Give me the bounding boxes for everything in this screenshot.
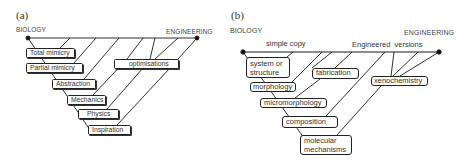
box-mechanics: Mechanics [67,95,106,105]
box-inspiration: Inspiration [88,125,131,135]
box-xenochemistry: xenochemistry [371,76,428,86]
panel-a-engineering-label: ENGINEERING [166,29,213,36]
panel-b-biology-label: BIOLOGY [230,27,262,34]
panel-a-biology-label: BIOLOGY [16,27,46,34]
annotation-engineered-versions: Engineered versions [352,41,422,49]
panel-b-engineering-label: ENGINEERING [404,29,454,36]
box-optimisations: optimisations [114,59,179,69]
panel-b-label: (b) [231,10,244,21]
box-fabrication: fabrication [312,68,359,79]
annotation-simple-copy: simple copy [266,40,306,48]
box-total-mimicry: Total mimicry [26,48,75,58]
box-abstraction: Abstraction [52,79,96,89]
box-morphology: morphology [250,82,296,92]
box-physics: Physics [78,109,119,119]
box-composition: composition [282,116,338,128]
box-partial-mimicry: Partial mimicry [26,63,83,73]
panel-a-label: (a) [16,10,28,21]
box-micromorphology: micromorphology [260,98,327,108]
box-molecular-mechanisms: molecular mechanisms [300,135,352,155]
box-system-or-structure: system or structure [246,57,290,78]
